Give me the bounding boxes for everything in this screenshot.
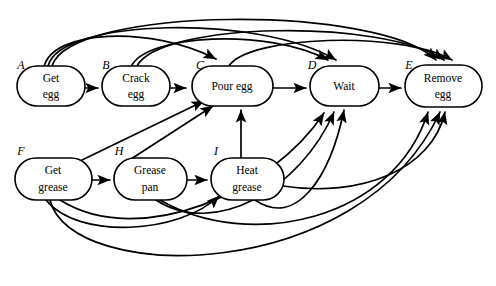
node-b-label-line-1: Crack [122, 72, 150, 84]
node-e-tag: E [404, 58, 413, 72]
node-e[interactable]: Remove egg E [404, 58, 482, 107]
edge-h-to-e [160, 112, 428, 224]
node-d[interactable]: Wait D [307, 58, 379, 106]
node-i[interactable]: Heat grease I [211, 144, 284, 200]
node-c[interactable]: Pour egg C [192, 58, 273, 106]
node-b-label-line-2: egg [128, 88, 145, 101]
node-e-label-line-2: egg [435, 88, 452, 101]
node-c-label-line-1: Pour egg [211, 80, 252, 93]
node-a-tag: A [16, 58, 25, 72]
precedence-diagram: Get egg A Crack egg B Pour egg C Wait D [0, 0, 496, 286]
node-i-tag: I [213, 144, 219, 158]
graph-canvas: Get egg A Crack egg B Pour egg C Wait D [0, 0, 496, 286]
node-d-label-line-1: Wait [333, 80, 355, 92]
node-h-label-line-1: Grease [134, 164, 166, 176]
node-f-label-line-2: grease [38, 181, 67, 194]
node-e-label-line-1: Remove [424, 72, 462, 84]
node-c-tag: C [196, 58, 205, 72]
node-i-label-line-2: grease [232, 181, 261, 194]
node-h-tag: H [114, 144, 125, 158]
node-layer: Get egg A Crack egg B Pour egg C Wait D [15, 58, 482, 200]
node-h-label-line-2: pan [142, 181, 159, 194]
edge-c-to-e [229, 40, 452, 66]
node-i-label-line-1: Heat [236, 164, 259, 176]
node-d-tag: D [307, 58, 317, 72]
node-h[interactable]: Grease pan H [114, 144, 187, 200]
edge-f-to-d [60, 113, 324, 219]
edge-b-to-e [137, 31, 444, 66]
edge-layer [44, 19, 452, 255]
node-a[interactable]: Get egg A [16, 58, 85, 106]
node-a-label-line-1: Get [43, 72, 60, 84]
edge-h-to-c [131, 106, 213, 159]
node-f-tag: F [16, 144, 25, 158]
node-f-label-line-1: Get [45, 164, 62, 176]
node-b-tag: B [102, 58, 110, 72]
node-a-label-line-2: egg [43, 88, 60, 101]
node-b[interactable]: Crack egg B [102, 58, 170, 106]
node-f[interactable]: Get grease F [15, 144, 92, 200]
edge-i-to-e [283, 112, 445, 189]
